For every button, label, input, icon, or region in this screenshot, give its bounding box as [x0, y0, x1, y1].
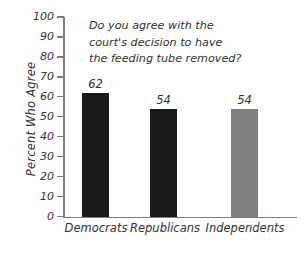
- y-tick-label: 40: [10, 131, 54, 142]
- y-tick-mark: [57, 96, 64, 97]
- y-tick-mark: [57, 156, 64, 157]
- y-tick-mark: [57, 196, 64, 197]
- chart-title-line-1: Do you agree with the: [89, 18, 285, 35]
- y-tick-mark: [57, 216, 64, 217]
- y-tick-label: 50: [10, 111, 54, 122]
- bar-value-label: 54: [219, 94, 270, 106]
- y-tick-mark: [57, 36, 64, 37]
- bar[interactable]: [82, 93, 109, 217]
- y-tick-label: 60: [10, 91, 54, 102]
- chart-title-line-2: court's decision to have: [89, 35, 285, 52]
- bar-chart: Percent Who Agree 1009080706050403020100…: [0, 0, 305, 257]
- bar[interactable]: [231, 109, 258, 217]
- y-tick-label: 90: [10, 31, 54, 42]
- y-tick-mark: [57, 16, 64, 17]
- y-tick-label: 0: [10, 211, 54, 222]
- y-axis-line: [63, 17, 65, 218]
- y-tick-mark: [57, 76, 64, 77]
- bar-value-label: 62: [70, 78, 121, 90]
- y-tick-mark: [57, 116, 64, 117]
- x-axis-category-label: Independents: [205, 222, 285, 235]
- chart-title: Do you agree with the court's decision t…: [89, 18, 285, 68]
- y-tick-label: 20: [10, 171, 54, 182]
- y-tick-label: 30: [10, 151, 54, 162]
- x-axis-category-label: Democrats: [58, 222, 134, 235]
- x-axis-category-label: Republicans: [125, 222, 205, 235]
- y-tick-label: 80: [10, 51, 54, 62]
- y-tick-label: 100: [10, 11, 54, 22]
- y-tick-label: 10: [10, 191, 54, 202]
- y-tick-mark: [57, 56, 64, 57]
- y-tick-label: 70: [10, 71, 54, 82]
- y-tick-mark: [57, 176, 64, 177]
- bar-value-label: 54: [138, 94, 189, 106]
- x-axis-line: [63, 217, 297, 219]
- y-tick-mark: [57, 136, 64, 137]
- bar[interactable]: [150, 109, 177, 217]
- chart-title-line-3: the feeding tube removed?: [89, 51, 285, 68]
